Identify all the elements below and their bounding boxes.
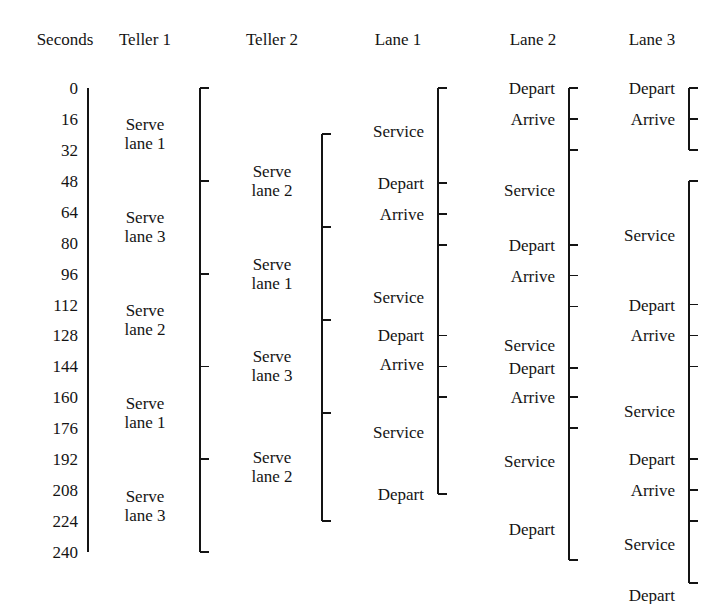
axis-tick-label: 128 <box>22 327 78 344</box>
event-label-lane-1: Depart <box>378 173 424 192</box>
event-label-line1: Depart <box>509 519 555 538</box>
event-label-lane-2: Service <box>504 181 555 200</box>
event-label-line1: Service <box>373 287 424 306</box>
event-label-line1: Service <box>504 336 555 355</box>
event-label-line1: Serve <box>253 162 292 181</box>
axis-tick-label: 192 <box>22 451 78 468</box>
event-label-line2: lane 3 <box>251 366 292 385</box>
event-label-lane-2: Arrive <box>511 388 555 407</box>
column-header-seconds: Seconds <box>37 30 94 49</box>
axis-tick-label: 64 <box>22 203 78 220</box>
event-label-line1: Depart <box>629 79 675 98</box>
event-label-line1: Arrive <box>631 481 675 500</box>
event-label-line1: Serve <box>253 347 292 366</box>
axis-tick-label: 48 <box>22 172 78 189</box>
axis-tick-label: 224 <box>22 513 78 530</box>
event-label-teller-1: Servelane 3 <box>124 487 165 525</box>
event-label-lane-2: Service <box>504 452 555 471</box>
event-label-line1: Serve <box>253 255 292 274</box>
event-label-line2: lane 2 <box>124 320 165 339</box>
axis-tick-label: 80 <box>22 234 78 251</box>
event-label-line2: lane 1 <box>124 134 165 153</box>
column-header-lane-2: Lane 2 <box>510 30 557 49</box>
event-label-line2: lane 2 <box>251 181 292 200</box>
event-label-line1: Arrive <box>511 109 555 128</box>
event-label-line1: Depart <box>509 359 555 378</box>
axis-tick-label: 144 <box>22 358 78 375</box>
event-label-lane-3: Service <box>624 401 675 420</box>
event-label-line1: Depart <box>509 79 555 98</box>
event-label-lane-1: Service <box>373 121 424 140</box>
event-label-lane-3: Service <box>624 535 675 554</box>
event-label-line1: Depart <box>378 173 424 192</box>
event-label-lane-3: Arrive <box>631 481 675 500</box>
event-label-line1: Depart <box>629 585 675 604</box>
event-label-line1: Serve <box>126 208 165 227</box>
event-label-line1: Depart <box>629 450 675 469</box>
event-label-teller-2: Servelane 2 <box>251 162 292 200</box>
event-label-line1: Serve <box>253 448 292 467</box>
event-label-lane-3: Depart <box>629 295 675 314</box>
event-label-line1: Arrive <box>380 355 424 374</box>
event-label-lane-3: Arrive <box>631 326 675 345</box>
event-label-lane-2: Arrive <box>511 266 555 285</box>
event-label-line1: Depart <box>378 485 424 504</box>
axis-tick-label: 0 <box>22 80 78 97</box>
event-label-line1: Service <box>624 535 675 554</box>
event-label-lane-2: Arrive <box>511 109 555 128</box>
event-label-lane-1: Depart <box>378 485 424 504</box>
event-label-lane-3: Depart <box>629 585 675 604</box>
event-label-line2: lane 1 <box>124 413 165 432</box>
event-label-line1: Serve <box>126 394 165 413</box>
event-label-lane-3: Depart <box>629 79 675 98</box>
axis-tick-label: 208 <box>22 482 78 499</box>
event-label-line1: Depart <box>378 326 424 345</box>
event-label-teller-2: Servelane 1 <box>251 255 292 293</box>
event-label-line2: lane 3 <box>124 227 165 246</box>
axis-tick-label: 160 <box>22 389 78 406</box>
event-label-lane-3: Arrive <box>631 109 675 128</box>
event-label-lane-2: Depart <box>509 235 555 254</box>
event-label-lane-1: Depart <box>378 326 424 345</box>
event-label-line1: Service <box>624 225 675 244</box>
event-label-line1: Arrive <box>631 109 675 128</box>
column-header-teller-1: Teller 1 <box>119 30 171 49</box>
event-label-teller-2: Servelane 2 <box>251 448 292 486</box>
axis-tick-label: 240 <box>22 544 78 561</box>
axis-tick-label: 96 <box>22 265 78 282</box>
event-label-lane-2: Depart <box>509 359 555 378</box>
column-header-teller-2: Teller 2 <box>246 30 298 49</box>
event-label-line1: Service <box>373 121 424 140</box>
event-label-lane-2: Service <box>504 336 555 355</box>
event-label-line1: Serve <box>126 487 165 506</box>
axis-tick-label: 112 <box>22 296 78 313</box>
axis-tick-label: 32 <box>22 141 78 158</box>
event-label-teller-1: Servelane 3 <box>124 208 165 246</box>
event-label-teller-1: Servelane 1 <box>124 115 165 153</box>
event-label-teller-2: Servelane 3 <box>251 347 292 385</box>
axis-tick-label: 176 <box>22 420 78 437</box>
event-label-line2: lane 2 <box>251 467 292 486</box>
event-label-line1: Arrive <box>511 388 555 407</box>
event-label-lane-1: Service <box>373 287 424 306</box>
event-label-line1: Service <box>624 401 675 420</box>
event-label-line2: lane 3 <box>124 506 165 525</box>
event-label-line1: Service <box>504 452 555 471</box>
event-label-teller-1: Servelane 1 <box>124 394 165 432</box>
event-label-line1: Service <box>504 181 555 200</box>
event-label-lane-1: Arrive <box>380 355 424 374</box>
event-label-line1: Serve <box>126 115 165 134</box>
event-label-line1: Depart <box>629 295 675 314</box>
column-header-lane-3: Lane 3 <box>629 30 676 49</box>
event-label-lane-3: Service <box>624 225 675 244</box>
event-label-lane-2: Depart <box>509 79 555 98</box>
axis-tick-label: 16 <box>22 110 78 127</box>
event-label-lane-1: Arrive <box>380 204 424 223</box>
column-header-lane-1: Lane 1 <box>375 30 422 49</box>
event-label-line1: Serve <box>126 301 165 320</box>
event-label-line1: Depart <box>509 235 555 254</box>
event-label-line1: Arrive <box>631 326 675 345</box>
event-label-line1: Arrive <box>380 204 424 223</box>
